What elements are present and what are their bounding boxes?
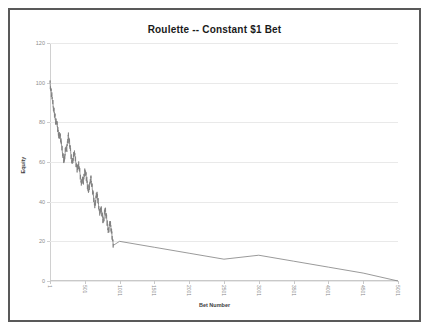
- x-tick-mark: [154, 281, 155, 284]
- x-tick-label: 3001: [256, 285, 262, 296]
- x-axis-title: Bet Number: [10, 302, 419, 308]
- x-tick-label: 5001: [395, 285, 401, 296]
- x-tick-label: 4001: [325, 285, 331, 296]
- x-tick-label: 1: [47, 285, 53, 288]
- y-tick-label: 0: [42, 278, 45, 284]
- x-tick-mark: [398, 281, 399, 284]
- x-tick-mark: [259, 281, 260, 284]
- x-tick-label: 1001: [117, 285, 123, 296]
- y-tick-label: 20: [39, 238, 45, 244]
- x-tick-mark: [120, 281, 121, 284]
- x-tick-mark: [224, 281, 225, 284]
- x-tick-label: 501: [82, 285, 88, 293]
- x-tick-mark: [189, 281, 190, 284]
- x-tick-label: 3501: [291, 285, 297, 296]
- series-line: [50, 80, 398, 281]
- x-tick-mark: [50, 281, 51, 284]
- chart-title: Roulette -- Constant $1 Bet: [10, 24, 419, 35]
- x-tick-label: 4501: [360, 285, 366, 296]
- x-tick-label: 2501: [221, 285, 227, 296]
- x-tick-label: 2001: [186, 285, 192, 296]
- x-tick-mark: [294, 281, 295, 284]
- y-tick-label: 40: [39, 199, 45, 205]
- x-tick-mark: [85, 281, 86, 284]
- x-tick-mark: [363, 281, 364, 284]
- plot-area: 020406080100120 150110011501200125013001…: [50, 43, 398, 281]
- y-tick-label: 120: [36, 40, 45, 46]
- y-tick-label: 80: [39, 119, 45, 125]
- chart-frame: Roulette -- Constant $1 Bet Equity Bet N…: [8, 8, 421, 322]
- y-axis-title: Equity: [20, 157, 26, 174]
- equity-line-series: [50, 43, 398, 281]
- x-tick-mark: [328, 281, 329, 284]
- y-tick-label: 60: [39, 159, 45, 165]
- y-tick-label: 100: [36, 80, 45, 86]
- chart-canvas: Roulette -- Constant $1 Bet Equity Bet N…: [10, 10, 419, 320]
- x-tick-label: 1501: [151, 285, 157, 296]
